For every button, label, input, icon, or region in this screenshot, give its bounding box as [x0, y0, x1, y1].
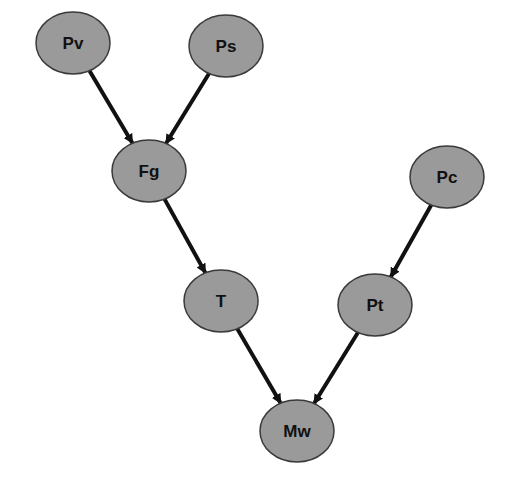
edge-ps-to-fg	[166, 74, 209, 144]
edge-pv-to-fg	[89, 71, 132, 143]
node-fg: Fg	[112, 140, 186, 202]
node-ps: Ps	[189, 15, 263, 77]
node-label: Fg	[139, 162, 160, 181]
node-pt: Pt	[338, 274, 412, 336]
node-label: Pv	[63, 34, 84, 53]
nodes-layer: PvPsFgPcTPtMw	[36, 12, 484, 462]
edge-pt-to-mw	[314, 333, 358, 404]
node-label: Mw	[283, 422, 311, 441]
node-label: Ps	[216, 37, 237, 56]
node-t: T	[184, 270, 258, 332]
node-pv: Pv	[36, 12, 110, 74]
node-mw: Mw	[260, 400, 334, 462]
edges-layer	[89, 71, 431, 404]
edge-fg-to-t	[165, 199, 206, 273]
node-label: Pt	[367, 296, 384, 315]
bayesian-network-diagram: PvPsFgPcTPtMw	[0, 0, 512, 486]
edge-t-to-mw	[237, 329, 280, 403]
node-label: Pc	[437, 168, 458, 187]
node-label: T	[216, 292, 227, 311]
edge-pc-to-pt	[391, 205, 431, 277]
node-pc: Pc	[410, 146, 484, 208]
